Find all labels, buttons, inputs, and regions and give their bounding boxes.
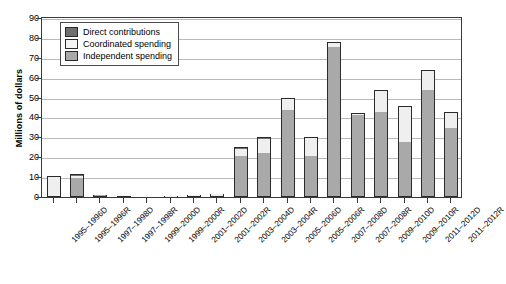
- bar-segment-independent-spending: [398, 142, 412, 197]
- bar-segment-independent-spending: [47, 196, 61, 197]
- bar-segment-coordinated-spending: [304, 138, 318, 156]
- bar-stack: [187, 195, 201, 197]
- x-tick-mark: [193, 198, 194, 203]
- y-tick-label: 70: [0, 54, 39, 62]
- bar-stack: [257, 137, 271, 197]
- bar-stack: [234, 147, 248, 197]
- x-tick-mark: [123, 198, 124, 203]
- x-tick-mark: [263, 198, 264, 203]
- y-tick-label: 80: [0, 34, 39, 42]
- bar-stack: [47, 176, 61, 197]
- bar-stack: [398, 106, 412, 197]
- legend-label-independent-spending: Independent spending: [83, 51, 172, 61]
- bar-stack: [444, 112, 458, 198]
- bar-stack: [70, 174, 84, 197]
- bar-segment-independent-spending: [304, 156, 318, 197]
- bar-segment-independent-spending: [187, 196, 201, 197]
- bar-segment-independent-spending: [70, 178, 84, 197]
- y-tick-label: 0: [0, 193, 39, 201]
- bar-segment-independent-spending: [210, 196, 224, 197]
- legend-swatch-direct-contributions: [65, 27, 78, 37]
- x-tick-mark: [427, 198, 428, 203]
- y-tick-label: 50: [0, 94, 39, 102]
- legend-label-coordinated-spending: Coordinated spending: [83, 39, 171, 49]
- legend-swatch-independent-spending: [65, 51, 78, 61]
- bar-segment-independent-spending: [234, 156, 248, 197]
- x-tick-mark: [287, 198, 288, 203]
- bar-segment-independent-spending: [351, 115, 365, 197]
- gridline: [42, 19, 461, 20]
- bar-segment-coordinated-spending: [374, 91, 388, 113]
- x-tick-mark: [310, 198, 311, 203]
- bar-stack: [374, 90, 388, 197]
- legend-item-independent-spending: Independent spending: [65, 50, 172, 62]
- y-tick-label: 20: [0, 153, 39, 161]
- bar-stack: [93, 195, 107, 197]
- x-tick-mark: [99, 198, 100, 203]
- x-tick-mark: [170, 198, 171, 203]
- bar-segment-coordinated-spending: [398, 107, 412, 143]
- chart-legend: Direct contributions Coordinated spendin…: [60, 22, 179, 66]
- gridline: [42, 99, 461, 100]
- legend-item-direct-contributions: Direct contributions: [65, 26, 172, 38]
- bar-segment-coordinated-spending: [47, 177, 61, 196]
- bar-stack: [117, 196, 131, 197]
- gridline: [42, 79, 461, 80]
- bar-stack: [327, 42, 341, 197]
- x-tick-mark: [380, 198, 381, 203]
- bar-segment-independent-spending: [374, 112, 388, 197]
- bar-segment-coordinated-spending: [257, 139, 271, 153]
- x-tick-mark: [450, 198, 451, 203]
- bar-segment-coordinated-spending: [421, 71, 435, 90]
- bar-stack: [281, 98, 295, 197]
- bar-segment-coordinated-spending: [444, 113, 458, 129]
- x-tick-mark: [76, 198, 77, 203]
- x-tick-mark: [53, 198, 54, 203]
- x-tick-mark: [240, 198, 241, 203]
- x-tick-mark: [357, 198, 358, 203]
- bar-segment-coordinated-spending: [164, 196, 178, 197]
- bar-segment-independent-spending: [327, 47, 341, 197]
- bar-stack: [210, 194, 224, 197]
- bar-segment-independent-spending: [444, 128, 458, 197]
- bar-stack: [351, 113, 365, 197]
- legend-label-direct-contributions: Direct contributions: [83, 27, 160, 37]
- legend-swatch-coordinated-spending: [65, 39, 78, 49]
- bar-stack: [164, 196, 178, 197]
- legend-item-coordinated-spending: Coordinated spending: [65, 38, 172, 50]
- y-axis-title: Millions of dollars: [14, 28, 24, 188]
- x-tick-mark: [146, 198, 147, 203]
- bar-segment-independent-spending: [421, 90, 435, 197]
- y-tick-label: 30: [0, 133, 39, 141]
- bar-segment-independent-spending: [117, 196, 131, 197]
- y-tick-label: 60: [0, 74, 39, 82]
- bar-stack: [304, 137, 318, 197]
- bar-segment-coordinated-spending: [234, 149, 248, 156]
- bar-segment-independent-spending: [257, 153, 271, 197]
- x-tick-mark: [333, 198, 334, 203]
- y-tick-label: 90: [0, 14, 39, 22]
- x-tick-mark: [404, 198, 405, 203]
- bar-stack: [421, 70, 435, 197]
- bar-segment-independent-spending: [93, 195, 107, 197]
- y-tick-label: 10: [0, 173, 39, 181]
- bar-segment-independent-spending: [281, 110, 295, 197]
- bar-segment-coordinated-spending: [281, 99, 295, 111]
- y-tick-label: 40: [0, 113, 39, 121]
- x-tick-mark: [216, 198, 217, 203]
